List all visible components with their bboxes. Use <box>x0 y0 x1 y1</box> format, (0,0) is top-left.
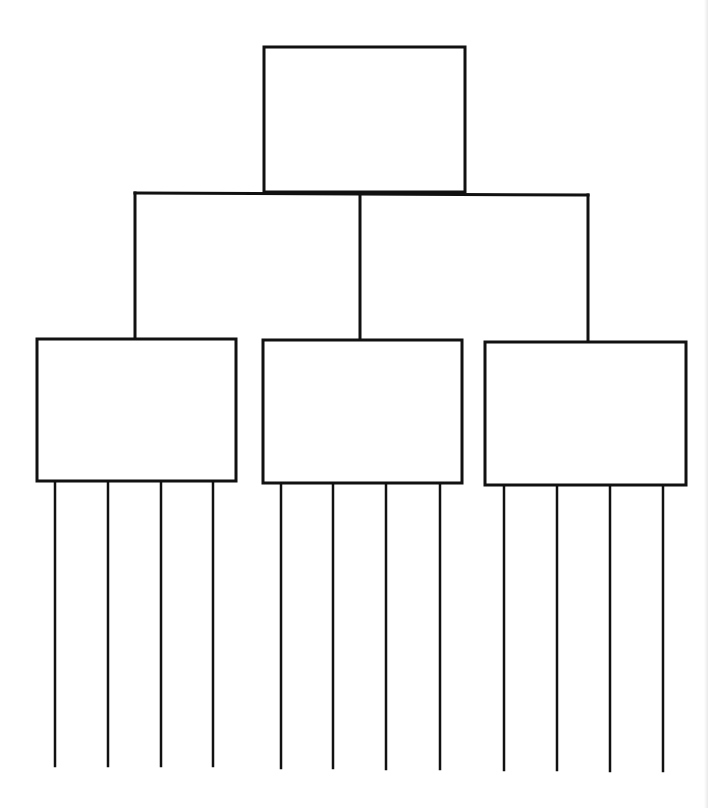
root-node <box>264 47 465 192</box>
child-nodes <box>37 339 686 771</box>
scan-edge-shadow <box>704 0 708 808</box>
child-node-2 <box>263 340 462 769</box>
tree-diagram <box>0 0 708 808</box>
child-node-1 <box>37 339 236 766</box>
root-connector <box>135 193 588 342</box>
child-box-2 <box>263 340 462 483</box>
child-box-1 <box>37 339 236 481</box>
child-box-3 <box>485 342 686 485</box>
child-node-3 <box>485 342 686 771</box>
root-box <box>264 47 465 192</box>
